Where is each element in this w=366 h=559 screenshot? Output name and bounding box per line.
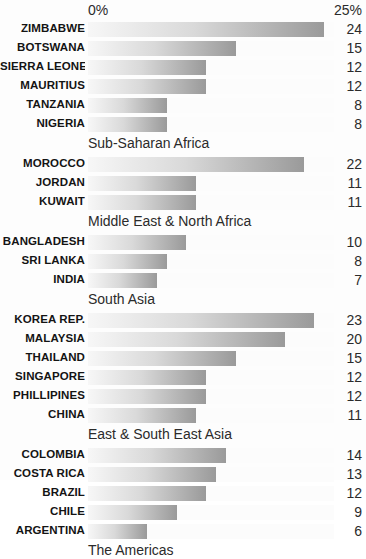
bar-fill bbox=[88, 332, 285, 347]
bar-row: MAURITIUS12 bbox=[0, 77, 366, 96]
bar-value-label: 9 bbox=[332, 504, 362, 520]
bar-category-label: BOTSWANA bbox=[0, 41, 85, 53]
bar-fill bbox=[88, 117, 167, 132]
bar-category-label: INDIA bbox=[0, 273, 85, 285]
group-caption-label: South Asia bbox=[88, 291, 155, 307]
bar-fill bbox=[88, 60, 206, 75]
axis-tick-max: 25% bbox=[334, 2, 362, 18]
group-caption-label: The Americas bbox=[88, 542, 174, 558]
bar-row: SRI LANKA8 bbox=[0, 252, 366, 271]
bar-track bbox=[88, 332, 334, 347]
bar-track bbox=[88, 98, 334, 113]
axis-tick-min: 0% bbox=[88, 2, 108, 18]
bar-track bbox=[88, 235, 334, 250]
bar-value-label: 23 bbox=[332, 312, 362, 328]
group-caption-label: East & South East Asia bbox=[88, 426, 232, 442]
group-caption-row: The Americas bbox=[0, 541, 366, 559]
group-caption-row: East & South East Asia bbox=[0, 425, 366, 446]
bar-track bbox=[88, 22, 334, 37]
bar-track bbox=[88, 273, 334, 288]
bar-value-label: 13 bbox=[332, 466, 362, 482]
bar-value-label: 12 bbox=[332, 78, 362, 94]
bar-category-label: THAILAND bbox=[0, 351, 85, 363]
bar-row: COSTA RICA13 bbox=[0, 465, 366, 484]
bar-track bbox=[88, 408, 334, 423]
bar-value-label: 15 bbox=[332, 350, 362, 366]
bar-row: THAILAND15 bbox=[0, 349, 366, 368]
bar-category-label: TANZANIA bbox=[0, 98, 85, 110]
bar-track bbox=[88, 389, 334, 404]
bar-category-label: MOROCCO bbox=[0, 157, 85, 169]
bar-row: PHILLIPINES12 bbox=[0, 387, 366, 406]
bar-value-label: 11 bbox=[332, 175, 362, 191]
bar-fill bbox=[88, 524, 147, 539]
bar-track bbox=[88, 176, 334, 191]
bar-track bbox=[88, 351, 334, 366]
bar-row: BANGLADESH10 bbox=[0, 233, 366, 252]
bar-fill bbox=[88, 351, 236, 366]
bar-value-label: 10 bbox=[332, 234, 362, 250]
bar-value-label: 24 bbox=[332, 21, 362, 37]
bar-track bbox=[88, 505, 334, 520]
bar-row: COLOMBIA14 bbox=[0, 446, 366, 465]
group-caption-row: Middle East & North Africa bbox=[0, 212, 366, 233]
bar-value-label: 22 bbox=[332, 156, 362, 172]
bar-fill bbox=[88, 408, 196, 423]
bar-track bbox=[88, 157, 334, 172]
bar-category-label: COSTA RICA bbox=[0, 467, 85, 479]
bar-value-label: 11 bbox=[332, 194, 362, 210]
bar-fill bbox=[88, 79, 206, 94]
bar-fill bbox=[88, 313, 314, 328]
bar-category-label: NIGERIA bbox=[0, 117, 85, 129]
group-caption-row: Sub-Saharan Africa bbox=[0, 134, 366, 155]
bar-row: MALAYSIA20 bbox=[0, 330, 366, 349]
bar-row: BOTSWANA15 bbox=[0, 39, 366, 58]
bar-value-label: 8 bbox=[332, 97, 362, 113]
group-caption-label: Middle East & North Africa bbox=[88, 213, 251, 229]
bar-value-label: 12 bbox=[332, 485, 362, 501]
bar-track bbox=[88, 448, 334, 463]
bar-category-label: SIERRA LEONE bbox=[0, 60, 85, 72]
bar-fill bbox=[88, 273, 157, 288]
bar-value-label: 12 bbox=[332, 59, 362, 75]
bar-category-label: BANGLADESH bbox=[0, 235, 85, 247]
bar-fill bbox=[88, 505, 177, 520]
bar-fill bbox=[88, 235, 186, 250]
bar-category-label: ZIMBABWE bbox=[0, 22, 85, 34]
bar-fill bbox=[88, 157, 304, 172]
bar-track bbox=[88, 524, 334, 539]
bar-category-label: BRAZIL bbox=[0, 486, 85, 498]
chart-rows: ZIMBABWE24BOTSWANA15SIERRA LEONE12MAURIT… bbox=[0, 20, 366, 559]
bar-value-label: 11 bbox=[332, 407, 362, 423]
bar-row: NIGERIA8 bbox=[0, 115, 366, 134]
bar-track bbox=[88, 254, 334, 269]
bar-row: ARGENTINA6 bbox=[0, 522, 366, 541]
bar-fill bbox=[88, 176, 196, 191]
bar-fill bbox=[88, 389, 206, 404]
bar-track bbox=[88, 467, 334, 482]
bar-value-label: 20 bbox=[332, 331, 362, 347]
bar-row: CHILE9 bbox=[0, 503, 366, 522]
bar-track bbox=[88, 60, 334, 75]
bar-category-label: CHILE bbox=[0, 505, 85, 517]
bar-row: TANZANIA8 bbox=[0, 96, 366, 115]
bar-fill bbox=[88, 195, 196, 210]
bar-value-label: 8 bbox=[332, 253, 362, 269]
bar-fill bbox=[88, 486, 206, 501]
bar-fill bbox=[88, 370, 206, 385]
bar-fill bbox=[88, 254, 167, 269]
bar-category-label: CHINA bbox=[0, 408, 85, 420]
bar-category-label: SRI LANKA bbox=[0, 254, 85, 266]
bar-row: ZIMBABWE24 bbox=[0, 20, 366, 39]
bar-track bbox=[88, 486, 334, 501]
bar-category-label: KUWAIT bbox=[0, 195, 85, 207]
bar-row: INDIA7 bbox=[0, 271, 366, 290]
bar-fill bbox=[88, 467, 216, 482]
bar-fill bbox=[88, 22, 324, 37]
bar-row: JORDAN11 bbox=[0, 174, 366, 193]
bar-value-label: 6 bbox=[332, 523, 362, 539]
bar-row: BRAZIL12 bbox=[0, 484, 366, 503]
axis-header: 0% 25% bbox=[0, 2, 366, 19]
bar-row: SINGAPORE12 bbox=[0, 368, 366, 387]
bar-category-label: MALAYSIA bbox=[0, 332, 85, 344]
